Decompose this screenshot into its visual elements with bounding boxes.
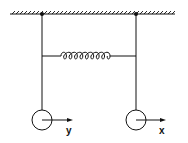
ceiling bbox=[10, 11, 175, 14]
left-arrow bbox=[42, 118, 73, 122]
y-label: y bbox=[66, 125, 72, 136]
coupled-pendulum-diagram: y x bbox=[0, 0, 188, 143]
right-arrow bbox=[136, 118, 166, 122]
diagram-canvas: y x bbox=[0, 0, 188, 143]
x-label: x bbox=[159, 125, 165, 136]
spring bbox=[42, 52, 136, 59]
